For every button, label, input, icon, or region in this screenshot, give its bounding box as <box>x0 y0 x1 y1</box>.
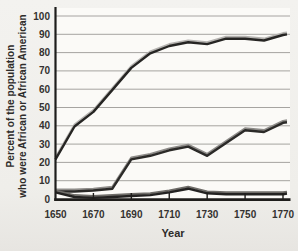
y-tick-label-0: 0 <box>44 194 50 205</box>
x-tick-label-1690: 1690 <box>120 209 143 220</box>
y-tick-labels: 0102030405060708090100 <box>33 11 50 205</box>
x-tick-label-1750: 1750 <box>234 209 257 220</box>
y-tick-label-100: 100 <box>33 11 50 22</box>
x-tick-label-1730: 1730 <box>196 209 219 220</box>
chart-figure: 0102030405060708090100165016701690171017… <box>0 0 298 251</box>
y-axis-title-line1: Percent of the population <box>5 0 17 216</box>
x-tick-label-1670: 1670 <box>82 209 105 220</box>
y-axis-title: Percent of the population who were Afric… <box>5 0 29 216</box>
y-tick-label-80: 80 <box>39 47 51 58</box>
y-tick-label-40: 40 <box>39 120 51 131</box>
plot-background <box>56 8 291 199</box>
x-axis-title: Year <box>58 227 288 239</box>
x-tick-label-1710: 1710 <box>158 209 181 220</box>
x-tick-labels: 1650167016901710173017501770 <box>44 209 294 220</box>
y-tick-label-30: 30 <box>39 139 51 150</box>
x-tick-label-1650: 1650 <box>44 209 67 220</box>
y-tick-label-20: 20 <box>39 157 51 168</box>
y-tick-label-70: 70 <box>39 65 51 76</box>
y-tick-label-90: 90 <box>39 29 51 40</box>
y-tick-label-50: 50 <box>39 102 51 113</box>
y-axis-title-line2: who were African or African American <box>17 0 29 216</box>
x-tick-label-1770: 1770 <box>272 209 295 220</box>
y-tick-label-10: 10 <box>39 175 51 186</box>
y-tick-label-60: 60 <box>39 84 51 95</box>
plot-area: 0102030405060708090100165016701690171017… <box>0 0 298 251</box>
